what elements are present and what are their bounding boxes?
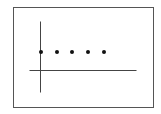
data-point	[55, 50, 59, 54]
diagram-canvas	[0, 0, 161, 114]
data-point	[39, 50, 43, 54]
data-point	[86, 50, 90, 54]
data-point	[102, 50, 106, 54]
diagram-frame	[14, 8, 154, 108]
data-points	[39, 50, 106, 54]
data-point	[70, 50, 74, 54]
